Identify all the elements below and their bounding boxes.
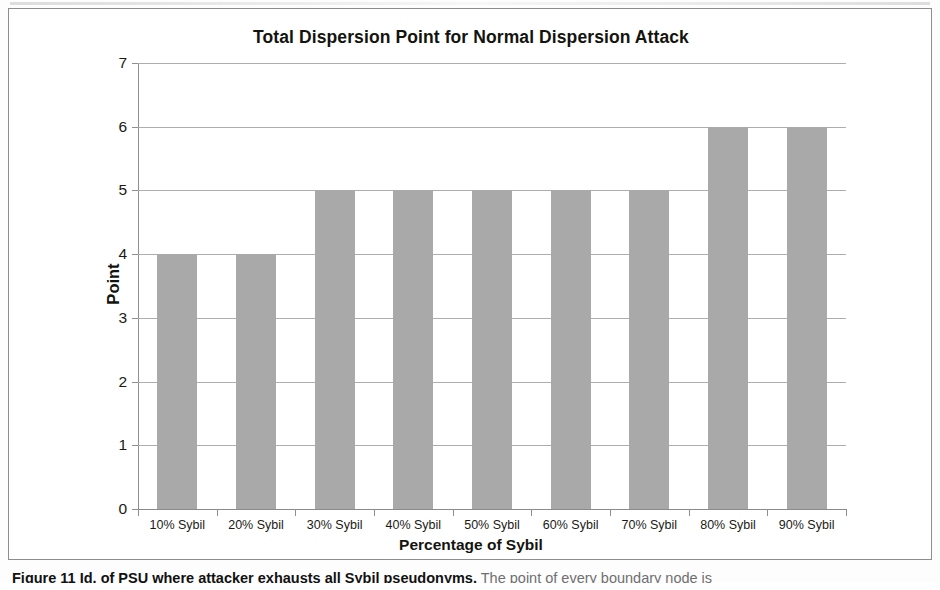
bar (629, 190, 669, 509)
y-axis-tick-label: 2 (118, 373, 127, 391)
x-tick (217, 509, 218, 516)
x-axis-tick-label: 10% Sybil (150, 518, 206, 532)
x-tick-origin (138, 509, 139, 516)
bar (157, 254, 197, 509)
x-tick (689, 509, 690, 516)
x-axis-tick-label: 80% Sybil (700, 518, 756, 532)
x-axis-title: Percentage of Sybil (9, 536, 933, 554)
x-axis-tick-label: 90% Sybil (779, 518, 835, 532)
bar-series (138, 63, 846, 509)
x-tick (374, 509, 375, 516)
x-axis-tick-label: 30% Sybil (307, 518, 363, 532)
plot-area: 01234567 10% Sybil20% Sybil30% Sybil40% … (138, 63, 846, 509)
bar (236, 254, 276, 509)
x-axis-tick-label: 20% Sybil (228, 518, 284, 532)
y-axis-tick-label: 1 (118, 436, 127, 454)
figure-frame: Total Dispersion Point for Normal Disper… (8, 8, 932, 560)
x-axis-tick-label: 40% Sybil (386, 518, 442, 532)
y-axis-tick-label: 3 (118, 309, 127, 327)
y-axis-tick-label: 0 (118, 500, 127, 518)
x-axis-labels: 10% Sybil20% Sybil30% Sybil40% Sybil50% … (138, 518, 846, 536)
bar (315, 190, 355, 509)
bar (551, 190, 591, 509)
bar (787, 127, 827, 509)
y-axis-title: Point (104, 263, 123, 304)
x-tick (453, 509, 454, 516)
x-axis-tick-label: 60% Sybil (543, 518, 599, 532)
y-axis-tick-label: 7 (118, 54, 127, 72)
x-tick (767, 509, 768, 516)
x-tick (295, 509, 296, 516)
caption-clip-mask (0, 583, 940, 590)
bar (472, 190, 512, 509)
x-tick (531, 509, 532, 516)
x-tick (610, 509, 611, 516)
bar (708, 127, 748, 509)
x-axis-tick-label: 70% Sybil (622, 518, 678, 532)
y-axis-tick-label: 4 (118, 245, 127, 263)
x-tick (846, 509, 847, 516)
y-axis-tick-label: 6 (118, 118, 127, 136)
chart-title: Total Dispersion Point for Normal Disper… (9, 27, 933, 48)
scanned-page: Total Dispersion Point for Normal Disper… (0, 0, 940, 590)
y-axis-tick-label: 5 (118, 181, 127, 199)
scan-artifact-smudge (10, 2, 930, 5)
bar (393, 190, 433, 509)
x-axis-tick-label: 50% Sybil (464, 518, 520, 532)
x-axis-ticks (138, 509, 846, 516)
